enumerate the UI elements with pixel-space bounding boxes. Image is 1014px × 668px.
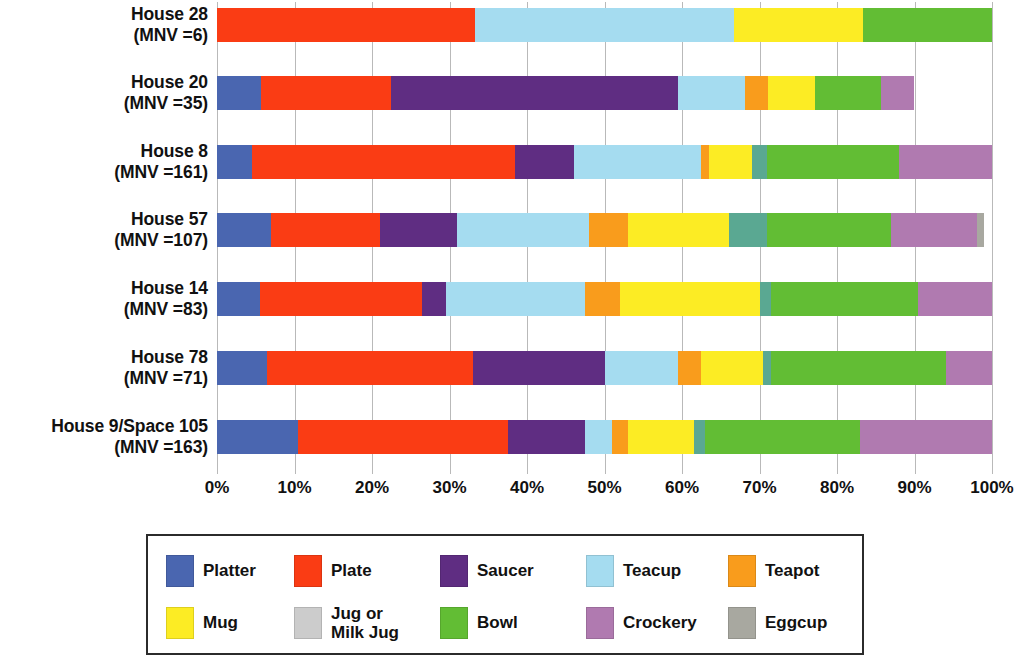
chart-row: House 28(MNV =6) bbox=[0, 2, 1007, 48]
legend-row-2: MugJug or Milk JugBowlCrockeryEggcup bbox=[148, 598, 862, 648]
category-label: House 57(MNV =107) bbox=[0, 207, 208, 253]
legend-swatch bbox=[440, 607, 468, 639]
x-tick-label: 10% bbox=[277, 478, 311, 498]
chart-row: House 20(MNV =35) bbox=[0, 70, 1007, 116]
category-label-line1: House 57 bbox=[131, 209, 208, 230]
bar-segment-plate bbox=[261, 76, 391, 110]
category-label: House 8(MNV =161) bbox=[0, 139, 208, 185]
chart-row: House 8(MNV =161) bbox=[0, 139, 1007, 185]
chart-row: House 78(MNV =71) bbox=[0, 345, 1007, 391]
legend-item-teacup[interactable]: Teacup bbox=[586, 546, 728, 596]
legend-label: Plate bbox=[331, 561, 372, 580]
x-tick-label: 80% bbox=[820, 478, 854, 498]
bar-segment-mug bbox=[628, 213, 729, 247]
bar-segment-platter bbox=[217, 420, 298, 454]
legend-row-1: PlatterPlateSaucerTeacupTeapot bbox=[148, 546, 862, 596]
category-label-mnv: (MNV =163) bbox=[114, 437, 208, 458]
legend-item-teapot[interactable]: Teapot bbox=[728, 546, 868, 596]
category-label-mnv: (MNV =6) bbox=[133, 25, 208, 46]
category-label-mnv: (MNV =83) bbox=[124, 299, 208, 320]
bar-segment-crockery bbox=[918, 282, 992, 316]
bar-segment-jug-or-milk-jug bbox=[729, 213, 768, 247]
legend-swatch bbox=[440, 555, 468, 587]
bar-segment-jug-or-milk-jug bbox=[694, 420, 706, 454]
legend-label: Teapot bbox=[765, 561, 819, 580]
legend-label: Saucer bbox=[477, 561, 534, 580]
x-tick-label: 40% bbox=[510, 478, 544, 498]
x-tick-label: 70% bbox=[742, 478, 776, 498]
x-tick-label: 50% bbox=[587, 478, 621, 498]
bar-segment-plate bbox=[252, 145, 516, 179]
bar-segment-crockery bbox=[946, 351, 993, 385]
legend-label: Eggcup bbox=[765, 613, 827, 632]
bar-segment-crockery bbox=[881, 76, 914, 110]
legend-swatch bbox=[294, 607, 322, 639]
bar-segment-teacup bbox=[678, 76, 745, 110]
bar-segment-bowl bbox=[767, 213, 891, 247]
bar-segment-plate bbox=[267, 351, 472, 385]
legend-label: Crockery bbox=[623, 613, 697, 632]
category-label-mnv: (MNV =107) bbox=[114, 230, 208, 251]
legend-item-plate[interactable]: Plate bbox=[294, 546, 440, 596]
bar-segment-jug-or-milk-jug bbox=[760, 282, 772, 316]
bar-segment-teacup bbox=[457, 213, 589, 247]
bar-segment-teapot bbox=[745, 76, 768, 110]
bar-segment-mug bbox=[734, 8, 863, 42]
stacked-bar bbox=[217, 145, 992, 179]
category-label: House 20(MNV =35) bbox=[0, 70, 208, 116]
bar-segment-saucer bbox=[508, 420, 586, 454]
bar-segment-bowl bbox=[771, 282, 918, 316]
bar-segment-mug bbox=[628, 420, 694, 454]
category-label: House 78(MNV =71) bbox=[0, 345, 208, 391]
legend-swatch bbox=[728, 607, 756, 639]
legend-swatch bbox=[586, 555, 614, 587]
bar-segment-teacup bbox=[605, 351, 679, 385]
legend-label: Bowl bbox=[477, 613, 518, 632]
bar-segment-plate bbox=[217, 8, 475, 42]
x-tick-label: 30% bbox=[432, 478, 466, 498]
category-label-line1: House 28 bbox=[131, 4, 208, 25]
bar-segment-mug bbox=[768, 76, 815, 110]
legend-swatch bbox=[166, 555, 194, 587]
bar-segment-teacup bbox=[446, 282, 586, 316]
bar-segment-teapot bbox=[701, 145, 709, 179]
x-tick-label: 20% bbox=[355, 478, 389, 498]
category-label-mnv: (MNV =35) bbox=[124, 93, 208, 114]
legend-label: Jug or Milk Jug bbox=[331, 604, 399, 642]
legend-item-bowl[interactable]: Bowl bbox=[440, 598, 586, 648]
legend-item-eggcup[interactable]: Eggcup bbox=[728, 598, 868, 648]
bar-segment-crockery bbox=[899, 145, 992, 179]
bar-segment-saucer bbox=[422, 282, 445, 316]
bar-segment-bowl bbox=[767, 145, 899, 179]
plot-area: House 28(MNV =6)House 20(MNV =35)House 8… bbox=[0, 0, 1007, 500]
x-axis: 0%10%20%30%40%50%60%70%80%90%100% bbox=[0, 474, 1007, 508]
x-tick-label: 60% bbox=[665, 478, 699, 498]
legend-item-platter[interactable]: Platter bbox=[166, 546, 294, 596]
legend-label: Mug bbox=[203, 613, 238, 632]
bar-segment-platter bbox=[217, 76, 261, 110]
bar-segment-jug-or-milk-jug bbox=[752, 145, 768, 179]
legend-item-saucer[interactable]: Saucer bbox=[440, 546, 586, 596]
legend-item-jug-or-milk-jug[interactable]: Jug or Milk Jug bbox=[294, 598, 440, 648]
legend-label: Platter bbox=[203, 561, 256, 580]
bar-segment-plate bbox=[260, 282, 423, 316]
x-tick-label: 100% bbox=[970, 478, 1013, 498]
legend-item-mug[interactable]: Mug bbox=[166, 598, 294, 648]
legend-item-crockery[interactable]: Crockery bbox=[586, 598, 728, 648]
bar-segment-saucer bbox=[515, 145, 573, 179]
bar-segment-mug bbox=[709, 145, 752, 179]
bar-segment-saucer bbox=[473, 351, 605, 385]
category-label-mnv: (MNV =71) bbox=[124, 368, 208, 389]
bar-segment-plate bbox=[298, 420, 507, 454]
bar-segment-bowl bbox=[815, 76, 882, 110]
bar-segment-crockery bbox=[860, 420, 992, 454]
bar-segment-plate bbox=[271, 213, 380, 247]
bar-segment-crockery bbox=[891, 213, 976, 247]
category-label: House 28(MNV =6) bbox=[0, 2, 208, 48]
legend-swatch bbox=[586, 607, 614, 639]
legend-swatch bbox=[728, 555, 756, 587]
legend-swatch bbox=[166, 607, 194, 639]
bar-segment-platter bbox=[217, 351, 267, 385]
bar-segment-bowl bbox=[705, 420, 860, 454]
category-label: House 14(MNV =83) bbox=[0, 276, 208, 322]
